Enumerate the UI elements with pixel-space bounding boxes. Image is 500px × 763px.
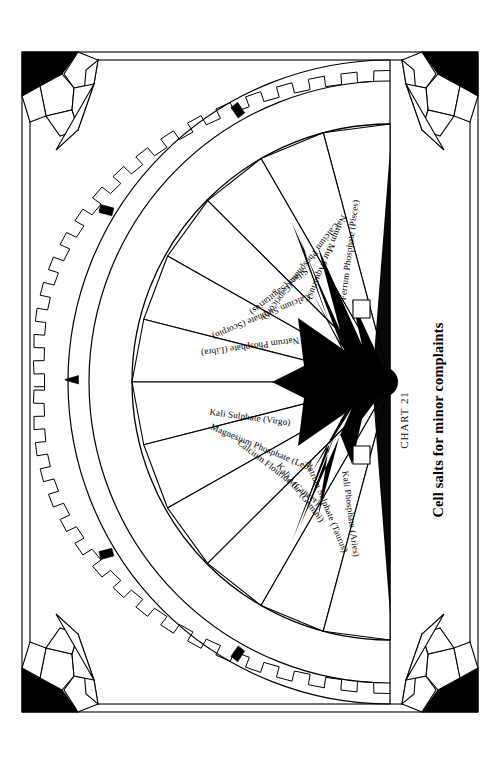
cell-salts-chart: CHART 21 Cell salts for minor complaints bbox=[0, 0, 500, 763]
corner-ornament-bottom-right bbox=[402, 614, 478, 712]
caption-block: CHART 21 Cell salts for minor complaints bbox=[398, 322, 447, 517]
band-marker-diamond bbox=[99, 204, 114, 215]
semicircle-diagram: Ferrum Phosphate (Pisces) Natrum Mur (Aq… bbox=[33, 60, 398, 704]
corner-ornament-bottom-left bbox=[22, 614, 98, 712]
corner-ornament-top-left bbox=[22, 52, 98, 150]
chart-page: CHART 21 Cell salts for minor complaints bbox=[0, 0, 500, 763]
chart-number: CHART 21 bbox=[398, 391, 410, 448]
page-title: Cell salts for minor complaints bbox=[430, 322, 446, 517]
band-marker-diamond bbox=[231, 102, 245, 118]
band-marker-diamond bbox=[65, 376, 79, 384]
corner-ornament-top-right bbox=[402, 52, 478, 150]
band-marker-diamond bbox=[231, 646, 245, 662]
band-marker-diamond bbox=[99, 548, 114, 559]
